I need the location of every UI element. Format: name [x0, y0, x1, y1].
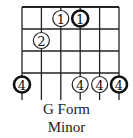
finger-dot: 4	[111, 77, 127, 93]
finger-dot: 4	[14, 77, 30, 93]
svg-text:4: 4	[95, 78, 103, 93]
chord-quality-label: Minor	[0, 119, 133, 136]
svg-text:4: 4	[115, 78, 123, 93]
chord-form-title: G Form	[0, 101, 133, 118]
svg-text:1: 1	[76, 12, 84, 27]
svg-text:2: 2	[37, 34, 45, 49]
finger-dot: 1	[72, 11, 88, 27]
finger-dot: 4	[72, 77, 88, 93]
finger-dot: 2	[33, 33, 49, 49]
finger-dot: 1	[53, 11, 69, 27]
svg-text:1: 1	[57, 12, 65, 27]
finger-dot: 4	[92, 77, 108, 93]
chord-diagram: 1124444	[0, 0, 133, 100]
svg-text:4: 4	[76, 78, 84, 93]
svg-text:4: 4	[18, 78, 26, 93]
